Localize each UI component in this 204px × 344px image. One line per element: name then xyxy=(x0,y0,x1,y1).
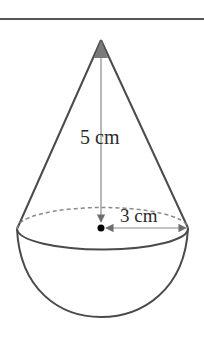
hemisphere-outline xyxy=(17,228,188,317)
height-label: 5 cm xyxy=(80,126,120,148)
center-dot xyxy=(98,225,105,232)
base-ellipse-front xyxy=(17,228,188,249)
cone-hemisphere-diagram: 5 cm 3 cm xyxy=(0,0,204,344)
radius-label: 3 cm xyxy=(120,205,158,226)
